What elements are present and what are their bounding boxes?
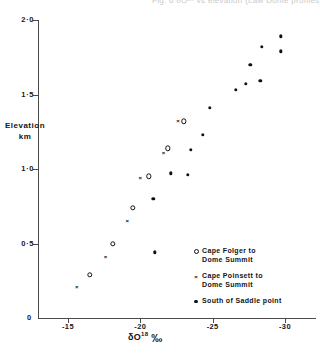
x-axis-title-text: δO18‰ <box>128 332 163 342</box>
x-tick-label: -15 <box>48 322 88 331</box>
legend-item: Cape Folger to Dome Summit <box>190 246 316 264</box>
data-point <box>249 63 252 66</box>
data-point <box>279 50 282 53</box>
legend-item: South of Saddle point <box>190 296 316 306</box>
data-point <box>74 284 79 289</box>
x-axis-title: δO18‰ <box>128 330 218 342</box>
legend-item: ×Cape Poinsett to Dome Summit <box>190 271 316 289</box>
data-point <box>186 173 189 176</box>
data-point <box>260 45 263 48</box>
data-point <box>181 119 186 124</box>
data-point <box>87 272 92 277</box>
legend-label: Cape Folger to Dome Summit <box>202 246 256 264</box>
data-point <box>110 241 115 246</box>
data-point <box>146 174 151 179</box>
legend: Cape Folger to Dome Summit×Cape Poinsett… <box>190 246 316 313</box>
data-point <box>244 82 247 85</box>
legend-label: South of Saddle point <box>202 296 282 305</box>
legend-marker <box>190 296 202 306</box>
data-point <box>153 251 156 254</box>
legend-marker <box>190 246 202 256</box>
figure-scatter-plot: Fig. 6 δO¹⁸ vs elevation (Law Dome profi… <box>0 0 320 353</box>
y-tick-label: 0·5 <box>0 239 34 248</box>
y-tick-label: 2·0 <box>0 15 34 24</box>
x-tick-label: -30 <box>265 322 305 331</box>
data-point <box>175 119 180 124</box>
data-point <box>161 150 166 155</box>
data-point <box>169 172 172 175</box>
legend-open-circle-icon <box>194 249 199 254</box>
data-point <box>152 197 155 200</box>
data-point <box>259 79 262 82</box>
y-axis-title: Elevationkm <box>2 120 48 142</box>
data-point <box>279 35 282 38</box>
legend-marker: × <box>190 271 202 281</box>
data-point <box>189 148 192 151</box>
data-point <box>201 133 204 136</box>
x-axis-line <box>38 318 316 319</box>
data-point <box>138 175 143 180</box>
legend-cross-icon: × <box>194 274 198 280</box>
legend-dot-icon <box>194 300 197 303</box>
y-tick-label: 1·5 <box>0 90 34 99</box>
origin-label: 0 <box>27 313 31 322</box>
data-point <box>234 88 237 91</box>
y-axis-title-text: Elevationkm <box>5 121 45 141</box>
data-point <box>208 106 211 109</box>
data-point <box>103 254 108 259</box>
y-tick-label: 1·0 <box>0 164 34 173</box>
legend-label: Cape Poinsett to Dome Summit <box>202 271 263 289</box>
data-point <box>125 219 130 224</box>
figure-top-caption: Fig. 6 δO¹⁸ vs elevation (Law Dome profi… <box>152 0 320 6</box>
data-point <box>130 205 135 210</box>
